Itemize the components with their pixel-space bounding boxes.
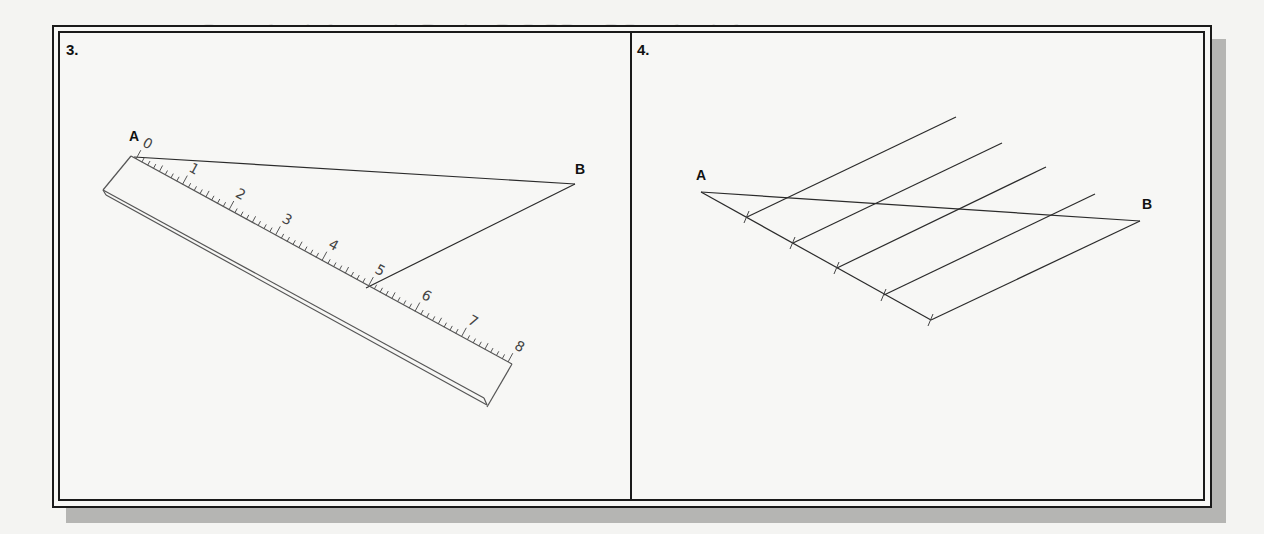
ruler-number: 0 xyxy=(140,134,155,152)
parallel-line-5-to-b xyxy=(931,221,1140,320)
ruler-number: 6 xyxy=(419,286,435,304)
ruler-number: 1 xyxy=(187,159,202,177)
panel-4-drawing xyxy=(701,117,1140,326)
panel-3-drawing: 012345678 xyxy=(103,134,575,407)
ruler-number: 5 xyxy=(373,261,388,279)
construction-line xyxy=(701,192,931,320)
ruler-number: 4 xyxy=(326,235,342,253)
ruler-number: 3 xyxy=(280,210,295,228)
ruler: 012345678 xyxy=(103,134,528,407)
parallel-line-4 xyxy=(884,194,1095,295)
line-ab xyxy=(134,157,575,184)
parallel-line-2 xyxy=(793,143,1002,243)
geometry-drawing: 012345678 xyxy=(0,0,1264,534)
ruler-number: 7 xyxy=(466,312,481,330)
ruler-number: 8 xyxy=(512,337,527,355)
line-ab xyxy=(701,192,1140,221)
parallel-line-3 xyxy=(837,167,1046,268)
ruler-number: 2 xyxy=(233,185,248,203)
line-b-to-ruler xyxy=(366,184,575,288)
